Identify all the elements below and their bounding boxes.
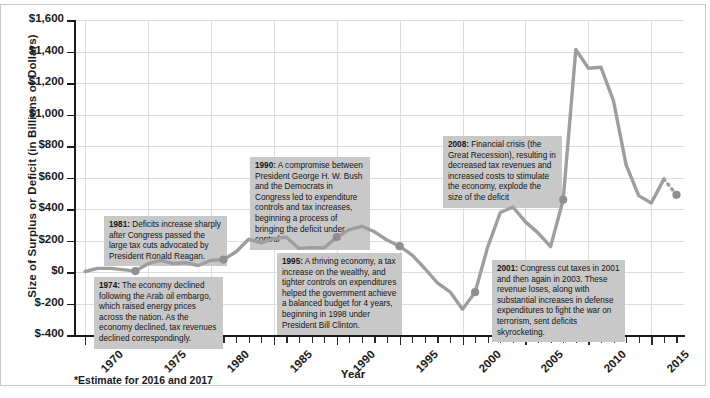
data-point-marker [131, 267, 139, 275]
data-point-marker [219, 256, 227, 264]
data-point-marker [559, 196, 567, 204]
data-point-marker [672, 191, 680, 199]
data-point-marker [396, 242, 404, 250]
data-point-markers [131, 191, 680, 297]
data-series-layer [0, 0, 710, 398]
deficit-chart-figure: Size of Surplus or Deficit (in Billions … [0, 0, 710, 398]
deficit-line [85, 50, 664, 310]
data-point-marker [333, 233, 341, 241]
data-point-marker [471, 288, 479, 296]
